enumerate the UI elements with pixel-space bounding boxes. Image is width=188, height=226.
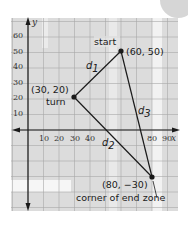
y-tick: 20 [13, 93, 23, 102]
y-tick: 30 [13, 78, 23, 87]
coordinate-diagram: y x 60 50 40 30 20 10 10 20 30 40 80 90 … [0, 0, 188, 226]
start-label: start [94, 36, 116, 47]
coordinate-plane: y x 60 50 40 30 20 10 10 20 30 40 80 90 … [0, 0, 188, 226]
turn-coords: (30, 20) [31, 84, 69, 95]
x-tick: 30 [70, 134, 80, 143]
grid-band [42, 18, 48, 48]
turn-label: turn [46, 96, 66, 107]
start-coords: (60, 50) [126, 46, 164, 57]
corner-coords: (80, −30) [102, 179, 148, 190]
point-turn [71, 94, 76, 99]
y-tick: 40 [13, 62, 23, 71]
x-tick: 20 [54, 134, 64, 143]
y-tick: 50 [13, 47, 23, 56]
x-tick: 10 [39, 134, 49, 143]
point-start [118, 48, 123, 53]
y-axis-label: y [31, 17, 38, 27]
x-tick: 80 [147, 134, 157, 143]
corner-label: corner of end zone [76, 192, 165, 203]
y-tick: 60 [13, 31, 23, 40]
y-tick: 10 [13, 109, 23, 118]
x-tick: 90 [162, 134, 172, 143]
grid-band [11, 180, 71, 192]
x-tick: 40 [85, 134, 95, 143]
point-corner [149, 174, 154, 179]
